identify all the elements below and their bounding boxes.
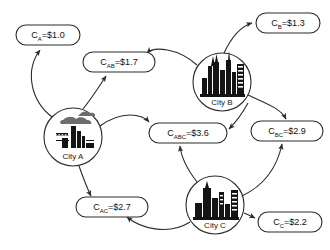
cost-label-c-bc[interactable]: CBC=$2.9 bbox=[251, 121, 323, 141]
c-a-value: =$1.0 bbox=[42, 30, 65, 40]
c-ac-text: CAC=$2.7 bbox=[93, 202, 131, 213]
edge-city-a-to-c-ac bbox=[79, 166, 91, 196]
c-ab-text: CAB=$1.7 bbox=[100, 57, 137, 68]
c-b-text: CB=$1.3 bbox=[271, 18, 304, 29]
c-b-value: =$1.3 bbox=[282, 18, 305, 28]
c-ab-value: =$1.7 bbox=[115, 57, 138, 67]
edge-city-c-to-c-abc bbox=[180, 146, 197, 182]
c-ab-sub: AB bbox=[107, 62, 115, 68]
city-b-label: City B bbox=[211, 98, 232, 107]
cost-label-c-ac[interactable]: CAC=$2.7 bbox=[76, 197, 148, 217]
cost-label-c-c[interactable]: CC=$2.2 bbox=[258, 212, 322, 232]
cost-label-c-abc[interactable]: CABC=$3.6 bbox=[149, 123, 227, 143]
c-bc-text: CBC=$2.9 bbox=[268, 126, 306, 137]
edge-city-a-to-c-ab bbox=[83, 76, 106, 109]
node-city-a[interactable]: City A bbox=[44, 108, 102, 166]
c-a-text: CA=$1.0 bbox=[31, 30, 64, 41]
edge-city-a-to-c-abc bbox=[100, 115, 149, 126]
edge-city-c-to-c-bc bbox=[242, 144, 282, 196]
c-ac-value: =$2.7 bbox=[108, 202, 131, 212]
edge-city-b-to-c-b bbox=[224, 23, 252, 53]
edge-city-c-to-c-ac bbox=[127, 217, 190, 229]
node-city-b[interactable]: City B bbox=[193, 51, 251, 111]
city-a-label: City A bbox=[63, 152, 85, 161]
c-abc-value: =$3.6 bbox=[186, 128, 209, 138]
cost-label-c-ab[interactable]: CAB=$1.7 bbox=[83, 52, 155, 72]
edge-city-a-to-c-a bbox=[31, 50, 52, 117]
c-c-value: =$2.2 bbox=[284, 217, 307, 227]
diagram-canvas: City A Ci bbox=[0, 0, 330, 250]
c-c-text: CC=$2.2 bbox=[273, 217, 307, 228]
cost-label-c-b[interactable]: CB=$1.3 bbox=[256, 13, 320, 33]
node-city-c[interactable]: City C bbox=[186, 176, 244, 234]
c-bc-value: =$2.9 bbox=[283, 126, 306, 136]
edge-city-b-to-c-bc bbox=[248, 95, 286, 119]
c-abc-text: CABC=$3.6 bbox=[167, 128, 209, 139]
edge-city-c-to-c-c bbox=[244, 213, 255, 218]
city-cost-network-diagram: City A Ci bbox=[0, 0, 330, 250]
cost-label-c-a[interactable]: CA=$1.0 bbox=[16, 25, 80, 45]
c-abc-sub: ABC bbox=[174, 133, 187, 139]
city-c-label: City C bbox=[204, 221, 226, 230]
